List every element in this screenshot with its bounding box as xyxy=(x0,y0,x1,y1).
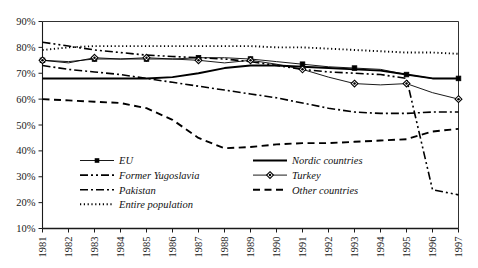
marker-diamond-center xyxy=(405,82,408,85)
y-tick-label: 40% xyxy=(16,145,36,156)
x-tick-label: 1993 xyxy=(349,237,360,258)
legend-marker-square xyxy=(95,158,100,163)
line-chart: 10%20%30%40%50%60%70%80%90%1981198219831… xyxy=(0,0,478,268)
marker-diamond-center xyxy=(353,82,356,85)
y-axis: 10%20%30%40%50%60%70%80%90% xyxy=(16,16,42,234)
legend-item-label: EU xyxy=(118,155,134,166)
x-tick-label: 1986 xyxy=(167,237,178,258)
x-tick-label: 1987 xyxy=(193,237,204,258)
y-tick-label: 30% xyxy=(16,171,36,182)
x-tick-label: 1985 xyxy=(141,237,152,258)
legend-item-label: Pakistan xyxy=(118,185,156,196)
legend-item[interactable]: EU xyxy=(80,155,134,166)
x-tick-label: 1989 xyxy=(245,237,256,258)
marker-diamond-center xyxy=(145,56,148,59)
legend-item[interactable]: Turkey xyxy=(253,170,321,181)
marker-diamond-center xyxy=(457,98,460,101)
legend-item[interactable]: Former Yugoslavia xyxy=(80,170,199,181)
x-tick-label: 1982 xyxy=(63,237,74,258)
legend-item-label: Turkey xyxy=(292,170,321,181)
series-line-nordic-countries xyxy=(43,65,459,78)
series-line-entire-population xyxy=(43,46,459,54)
y-tick-label: 50% xyxy=(16,120,36,131)
marker-square xyxy=(404,72,409,77)
legend-item[interactable]: Entire population xyxy=(80,199,193,210)
legend-item-label: Entire population xyxy=(118,199,193,210)
series-line-other-countries xyxy=(43,99,459,148)
x-axis: 1981198219831984198519861987198819891990… xyxy=(37,229,464,258)
x-tick-label: 1990 xyxy=(271,237,282,258)
legend: EUFormer YugoslaviaPakistanEntire popula… xyxy=(80,155,362,210)
marker-diamond-center xyxy=(197,59,200,62)
y-tick-label: 70% xyxy=(16,68,36,79)
x-tick-label: 1992 xyxy=(323,237,334,258)
marker-diamond-center xyxy=(301,68,304,71)
legend-item-label: Other countries xyxy=(292,185,358,196)
x-tick-label: 1996 xyxy=(427,237,438,258)
legend-item-label: Nordic countries xyxy=(291,155,362,166)
marker-diamond-center xyxy=(41,59,44,62)
legend-item[interactable]: Other countries xyxy=(253,185,358,196)
legend-marker-diamond-center xyxy=(269,174,272,177)
series-layer xyxy=(39,42,462,195)
x-tick-label: 1997 xyxy=(453,237,464,258)
x-tick-label: 1984 xyxy=(115,236,126,258)
marker-diamond-center xyxy=(93,56,96,59)
x-tick-label: 1991 xyxy=(297,237,308,258)
marker-square xyxy=(352,66,357,71)
chart-canvas: 10%20%30%40%50%60%70%80%90%1981198219831… xyxy=(0,0,478,268)
marker-square xyxy=(456,76,461,81)
legend-item-label: Former Yugoslavia xyxy=(118,170,199,181)
legend-item[interactable]: Nordic countries xyxy=(253,155,362,166)
y-tick-label: 20% xyxy=(16,197,36,208)
y-tick-label: 90% xyxy=(16,16,36,27)
x-tick-label: 1995 xyxy=(401,237,412,258)
x-tick-label: 1988 xyxy=(219,237,230,258)
x-tick-label: 1981 xyxy=(37,237,48,258)
y-tick-label: 80% xyxy=(16,42,36,53)
x-tick-label: 1983 xyxy=(89,237,100,258)
x-tick-label: 1994 xyxy=(375,236,386,258)
legend-item[interactable]: Pakistan xyxy=(80,185,156,196)
y-tick-label: 60% xyxy=(16,94,36,105)
y-tick-label: 10% xyxy=(16,223,36,234)
marker-diamond-center xyxy=(249,59,252,62)
